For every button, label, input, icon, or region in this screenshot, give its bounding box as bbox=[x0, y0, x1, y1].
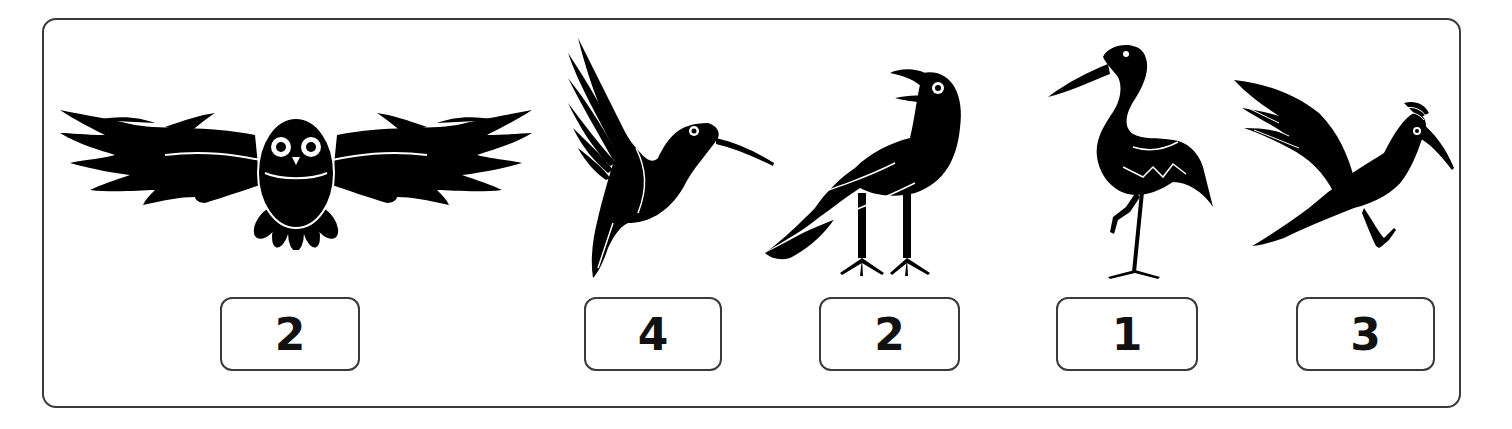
number-label: 2 bbox=[874, 309, 905, 360]
hummingbird-icon bbox=[568, 38, 776, 278]
number-box-owl[interactable]: 2 bbox=[220, 297, 360, 371]
owl-icon bbox=[55, 105, 537, 250]
number-box-crow[interactable]: 2 bbox=[819, 297, 960, 371]
crow-icon bbox=[765, 68, 970, 278]
number-label: 1 bbox=[1112, 309, 1143, 360]
stork-icon bbox=[1048, 42, 1216, 282]
number-label: 4 bbox=[638, 309, 669, 360]
number-box-kingfisher[interactable]: 3 bbox=[1296, 297, 1435, 371]
number-label: 2 bbox=[275, 309, 306, 360]
number-box-hummingbird[interactable]: 4 bbox=[584, 297, 722, 371]
number-label: 3 bbox=[1350, 309, 1381, 360]
number-box-stork[interactable]: 1 bbox=[1056, 297, 1198, 371]
kingfisher-icon bbox=[1234, 78, 1456, 258]
